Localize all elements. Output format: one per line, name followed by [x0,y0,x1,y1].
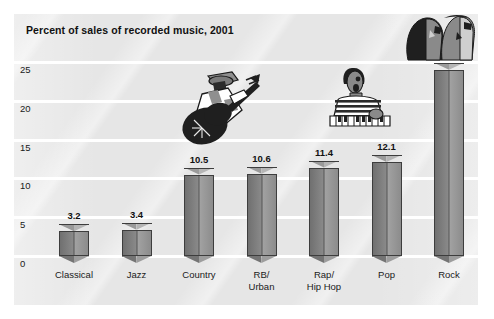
chart-title: Percent of sales of recorded music, 2001 [26,24,234,36]
category-label: Rock [403,269,478,281]
bar[interactable] [434,70,464,256]
bar-left-face [184,175,199,256]
bar-group[interactable]: 11.4Rap/ Hip Hop [309,168,339,256]
bar-right-face [387,162,402,256]
bar-left-face [372,162,387,256]
bar[interactable] [247,174,277,256]
chart-container: 2520151050 3.2Classical3.4Jazz10.5Countr… [0,0,494,319]
bar-group[interactable]: 24.0Rock [434,70,464,256]
bar-top-facet [309,161,339,168]
y-axis-tick-label: 5 [20,220,25,230]
bar-left-face [309,168,324,256]
bar-value-label: 12.1 [372,141,402,152]
bar-value-label: 24.0 [434,49,464,60]
bar-top-facet [372,155,402,162]
y-axis-tick-label: 0 [20,259,25,269]
bar-value-label: 3.4 [122,209,152,220]
bar-bottom-facet [59,256,89,263]
bar-center-edge [136,230,137,256]
bar-bottom-facet [184,256,214,263]
bar-bottom-facet [247,256,277,263]
bar-center-edge [261,174,262,256]
bar-right-face [199,175,214,256]
bar-top-facet [184,168,214,175]
bar[interactable] [309,168,339,256]
bar-right-face [74,231,89,256]
bar-left-face [434,70,449,256]
bar-left-face [59,231,74,256]
bar-bottom-facet [309,256,339,263]
bar-center-edge [324,168,325,256]
bar-bottom-facet [122,256,152,263]
y-axis-tick-label: 10 [20,181,31,191]
bar[interactable] [184,175,214,256]
y-axis-tick-label: 20 [20,104,31,114]
bar-left-face [247,174,262,256]
bar-center-edge [199,175,200,256]
bar[interactable] [59,231,89,256]
bars-layer: 3.2Classical3.4Jazz10.5Country10.6RB/ Ur… [14,14,478,305]
bar-top-facet [59,224,89,231]
bar-center-edge [386,162,387,256]
bar-center-edge [449,70,450,256]
bar-group[interactable]: 10.6RB/ Urban [247,174,277,256]
bar-value-label: 3.2 [59,210,89,221]
bar-value-label: 10.5 [184,154,214,165]
bar-right-face [137,230,152,256]
plot-panel: 2520151050 3.2Classical3.4Jazz10.5Countr… [14,14,478,305]
bar-group[interactable]: 3.4Jazz [122,230,152,256]
bar-top-facet [434,63,464,70]
bar-group[interactable]: 10.5Country [184,175,214,256]
bar-group[interactable]: 3.2Classical [59,231,89,256]
bar-value-label: 11.4 [309,147,339,158]
y-axis-tick-label: 15 [20,143,31,153]
bar-group[interactable]: 12.1Pop [372,162,402,256]
bar[interactable] [122,230,152,256]
y-axis-tick-label: 25 [20,65,31,75]
bar-left-face [122,230,137,256]
bar-right-face [449,70,464,256]
bar-top-facet [122,223,152,230]
bar-value-label: 10.6 [247,153,277,164]
bar-center-edge [74,231,75,256]
bar-bottom-facet [372,256,402,263]
bar[interactable] [372,162,402,256]
bar-top-facet [247,167,277,174]
bar-right-face [324,168,339,256]
bar-right-face [262,174,277,256]
bar-bottom-facet [434,256,464,263]
